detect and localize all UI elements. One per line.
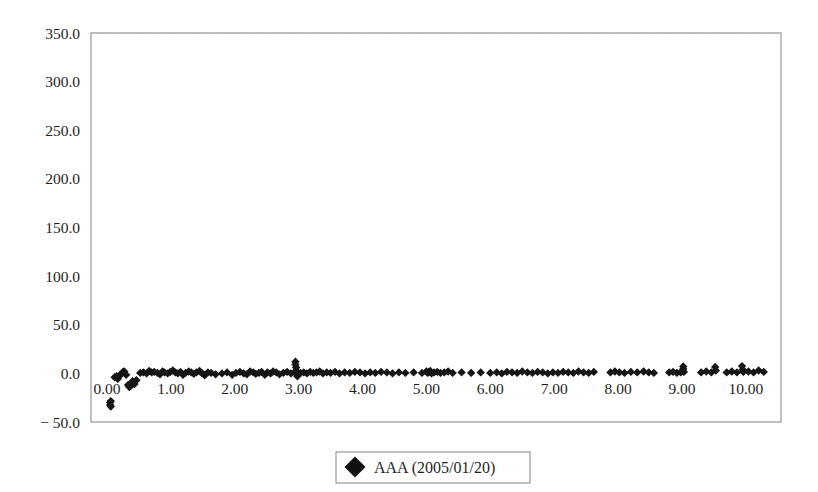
x-tick-label: 10.00 [728,380,763,397]
plot-area-frame [91,33,781,422]
x-tick-label: 8.00 [605,380,632,397]
y-tick-label: 0.0 [61,365,81,382]
x-tick-label: 9.00 [668,380,695,397]
x-tick-label: 3.00 [285,380,312,397]
y-tick-label: 100.0 [45,268,80,285]
y-tick-label: 250.0 [45,122,80,139]
y-tick-label: 150.0 [45,219,80,236]
x-tick-label: 1.00 [157,380,184,397]
chart-canvas: 350.0300.0250.0200.0150.0100.050.00.0− 5… [0,0,818,492]
y-tick-label: 50.0 [53,316,80,333]
x-tick-label: 6.00 [477,380,504,397]
legend-entry-label: AAA (2005/01/20) [374,459,495,477]
y-tick-label: − 50.0 [40,414,80,431]
x-tick-label: 5.00 [413,380,440,397]
y-tick-label: 200.0 [45,170,80,187]
x-tick-label: 2.00 [221,380,248,397]
x-tick-label: 0.00 [93,380,120,397]
scatter-chart-figure: 350.0300.0250.0200.0150.0100.050.00.0− 5… [0,0,818,492]
x-tick-label: 4.00 [349,380,376,397]
chart-legend: AAA (2005/01/20) [336,452,530,483]
y-tick-label: 350.0 [45,25,80,42]
y-tick-label: 300.0 [45,73,80,90]
x-tick-label: 7.00 [541,380,568,397]
